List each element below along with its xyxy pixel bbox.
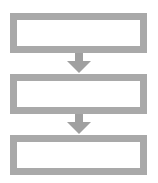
flow-box-2 (10, 74, 147, 114)
down-arrow-icon (67, 53, 91, 73)
down-arrow-icon (67, 114, 91, 134)
flow-box-1 (10, 13, 147, 53)
flow-box-3 (10, 135, 147, 175)
